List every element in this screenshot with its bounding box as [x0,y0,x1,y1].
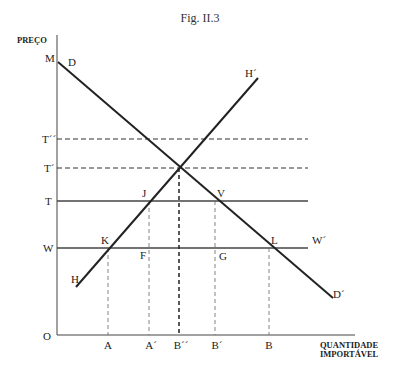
label-j: J [142,187,147,199]
label-k: K [101,234,109,246]
label-m: M [45,52,55,64]
demand-curve [58,62,333,298]
label-f: F [140,249,146,261]
label-b-prime: B´ [212,339,223,351]
label-t: T [45,195,52,207]
label-d: D [68,56,76,68]
figure-title: Fig. II.3 [181,11,220,25]
label-a-prime: A´ [145,339,157,351]
diagram-canvas: Fig. II.3 PREÇO QUANTIDADE IMPORTÁVEL O … [0,0,395,378]
label-t-double-prime: T´´ [42,133,56,145]
label-w: W [43,242,54,254]
y-axis-label: PREÇO [17,35,47,45]
label-v: V [217,187,225,199]
label-a: A [104,339,112,351]
label-d-prime: D´ [333,288,345,300]
origin-label: O [43,330,51,342]
label-w-prime: W´ [312,234,326,246]
x-axis-label-line2: IMPORTÁVEL [320,349,379,359]
label-b-double-prime: B´´ [174,339,189,351]
label-h-prime: H´ [245,67,257,79]
label-h: H [71,273,79,285]
label-l: L [271,234,278,246]
label-b: B [265,339,272,351]
label-g: G [219,250,227,262]
supply-curve [76,78,258,287]
label-t-prime: T´ [44,162,55,174]
